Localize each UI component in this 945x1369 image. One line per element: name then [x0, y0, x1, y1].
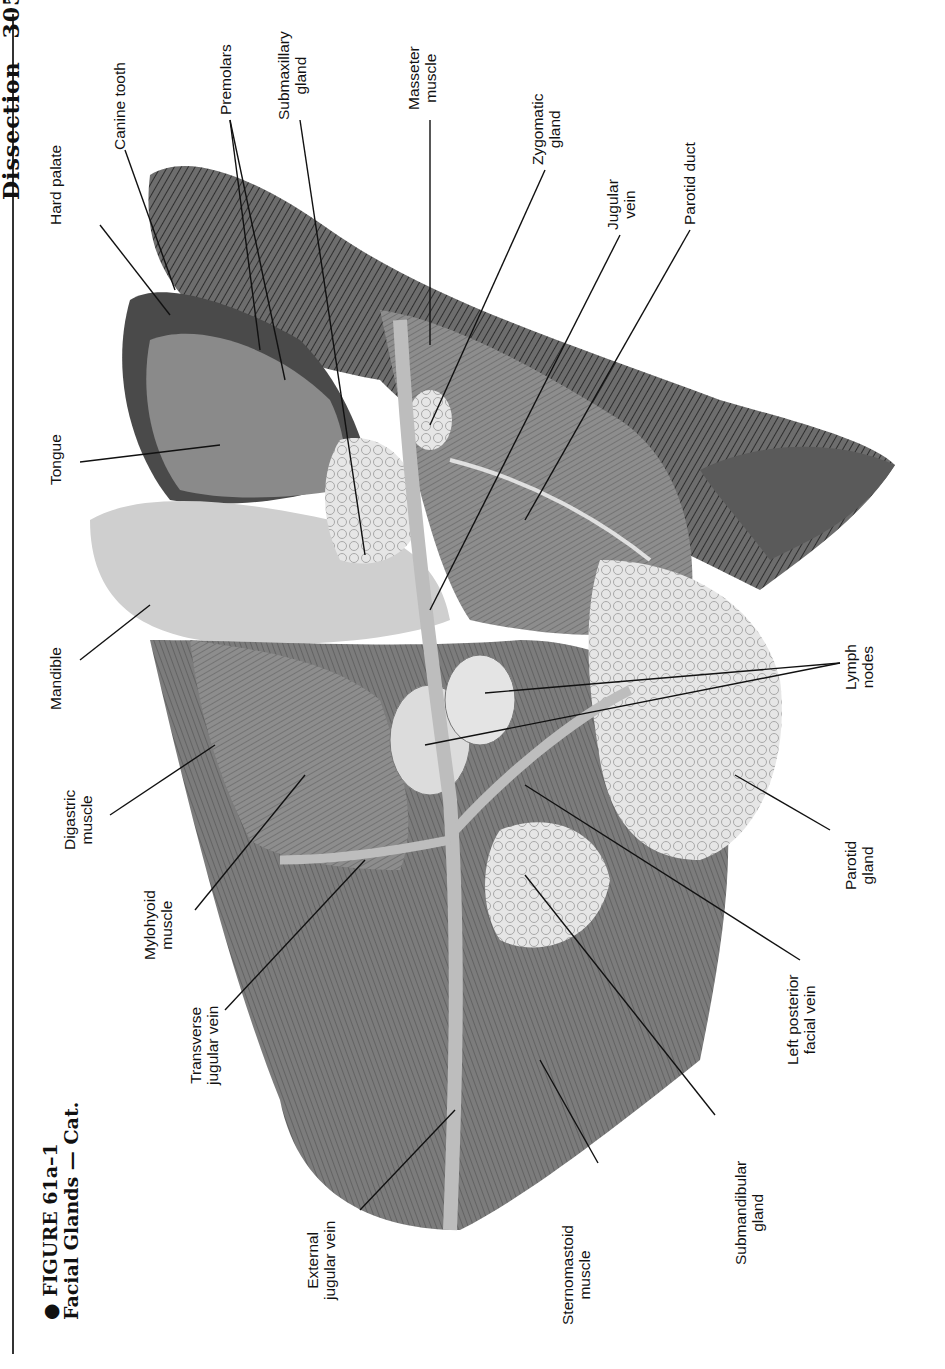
label-digastric-muscle: Digastricmuscle [62, 790, 95, 850]
label-external-jugular-vein: Externaljugular vein [305, 1221, 338, 1300]
figure-caption: ● FIGURE 61a–1 Facial Glands — Cat. [40, 1102, 81, 1320]
running-head-text: Dissection [0, 61, 24, 200]
figure-title: Facial Glands — Cat. [61, 1102, 82, 1320]
label-mylohyoid-muscle: Mylohyoidmuscle [142, 890, 175, 960]
running-head: Dissection 305 [0, 0, 24, 200]
label-jugular-vein: Jugularvein [605, 179, 638, 230]
label-mandible: Mandible [48, 647, 65, 710]
page-number: 305 [0, 0, 24, 39]
label-transverse-jugular-vein: Transversejugular vein [188, 1006, 221, 1085]
label-left-posterior-facial-vein: Left posteriorfacial vein [785, 975, 818, 1065]
figure-number: ● FIGURE 61a–1 [40, 1102, 61, 1320]
label-zygomatic-gland: Zygomaticgland [530, 94, 563, 166]
label-submaxillary-gland: Submaxillarygland [276, 31, 309, 120]
label-hard-palate: Hard palate [48, 145, 65, 225]
margin-rule [12, 14, 14, 1354]
label-tongue: Tongue [48, 434, 65, 485]
label-sternomastoid-muscle: Sternomastoidmuscle [560, 1225, 593, 1325]
label-lymph-nodes: Lymphnodes [843, 644, 876, 690]
label-canine-tooth: Canine tooth [112, 62, 129, 150]
label-parotid-gland: Parotidgland [843, 841, 876, 890]
lymph-node-2 [445, 655, 515, 745]
label-masseter-muscle: Massetermuscle [406, 46, 439, 110]
label-parotid-duct: Parotid duct [682, 142, 699, 225]
label-premolars: Premolars [218, 44, 235, 115]
label-submandibular-gland: Submandibulargland [733, 1161, 766, 1265]
cat-facial-glands-illustration [0, 0, 945, 1369]
